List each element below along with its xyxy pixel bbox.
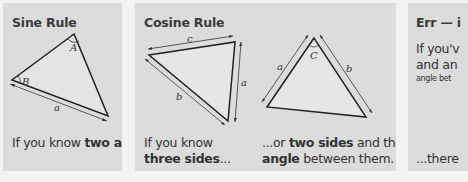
emphasis-angle: angle [262,151,300,166]
emphasis-two-angles: two angles [84,135,122,150]
cosine-triangle-two-sides-angle: a b C [262,35,372,117]
emphasis-three-sides: three sides [144,151,220,166]
sine-rule-panel: Sine Rule A B a If you know two angles a… [3,3,122,171]
truncated-panel-small-text: angle bet [416,74,451,84]
side-c-label: c [187,33,193,44]
side-a-label-2: a [277,61,283,72]
cosine-rule-panel: Cosine Rule c b a [135,3,396,171]
angle-c-label: C [310,50,318,61]
angle-a-label: A [69,42,77,53]
sine-rule-caption: If you know two angles and a side. [12,135,122,151]
side-a-label: a [241,77,247,88]
truncated-panel: Err — i If you'v and an angle bet ...the… [408,3,468,171]
side-b-label-2: b [346,63,352,74]
truncated-panel-footer: ...there [416,151,459,167]
emphasis-two-sides: two sides [289,135,353,150]
cosine-triangle-three-sides: c b a [145,33,247,125]
side-b-label: b [176,91,182,102]
sine-triangle [12,34,108,116]
angle-b-label: B [21,76,29,87]
cosine-caption-two-sides-angle: ...or two sides and the angle between th… [262,135,396,167]
truncated-panel-title: Err — i [416,15,461,30]
cosine-caption-three-sides: If you know three sides... [144,135,231,167]
truncated-panel-text: If you'v and an [416,41,459,73]
side-a-label: a [54,102,60,113]
